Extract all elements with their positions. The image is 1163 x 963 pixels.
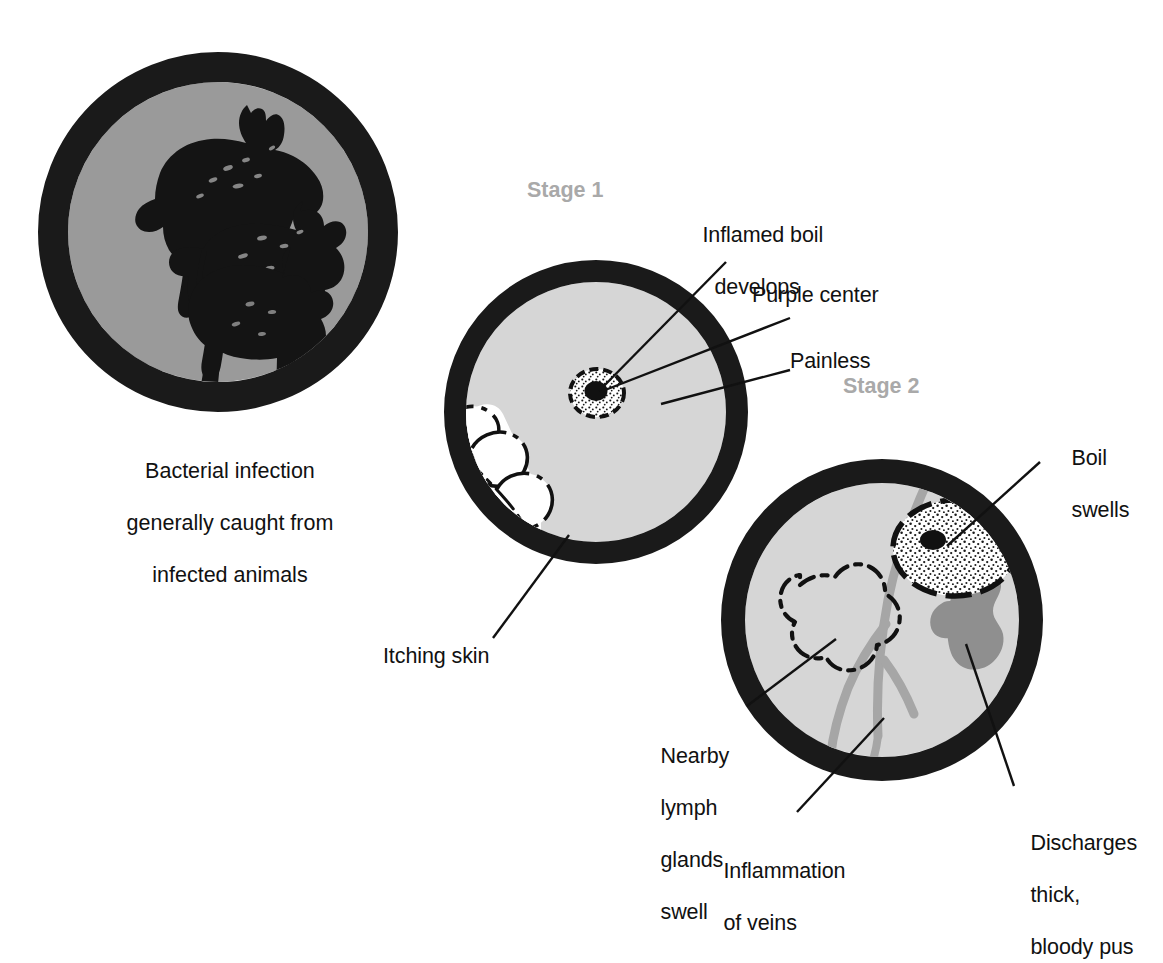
callout-painless: Painless (790, 348, 870, 374)
source-caption-l2: generally caught from (127, 511, 334, 535)
small-stippled-boil (570, 369, 624, 417)
callout-discharges-l1: Discharges (1031, 831, 1138, 855)
callout-purple-center: Purple center (752, 282, 879, 308)
callout-lymph-glands-l2: lymph (661, 796, 718, 820)
callout-discharges-l3: bloody pus (1031, 935, 1134, 959)
source-caption-l3: infected animals (152, 563, 307, 587)
callout-inflammation-l2: of veins (724, 911, 797, 935)
stage-1-label: Stage 1 (527, 178, 603, 203)
source-panel-caption: Bacterial infection generally caught fro… (58, 432, 378, 614)
callout-boil-swells-l1: Boil (1072, 446, 1107, 470)
infection-source-panel (53, 67, 383, 403)
stage-2-panel (733, 462, 1040, 812)
callout-boil-swells-l2: swells (1072, 498, 1130, 522)
callout-lymph-glands-l1: Nearby (661, 744, 730, 768)
large-boil-center-dot (920, 530, 946, 550)
callout-discharges-l2: thick, (1031, 883, 1081, 907)
callout-inflamed-boil-l1: Inflamed boil (703, 223, 824, 247)
callout-inflammation-of-veins: Inflammation of veins (700, 832, 845, 962)
stage-2-label: Stage 2 (843, 374, 919, 399)
callout-boil-swells: Boil swells (1048, 419, 1129, 549)
callout-itching-skin: Itching skin (383, 643, 489, 669)
callout-inflammation-l1: Inflammation (724, 859, 846, 883)
leader-itching-skin (493, 535, 569, 638)
source-caption-l1: Bacterial infection (145, 459, 315, 483)
callout-discharges: Discharges thick, bloody pus (1007, 804, 1137, 963)
